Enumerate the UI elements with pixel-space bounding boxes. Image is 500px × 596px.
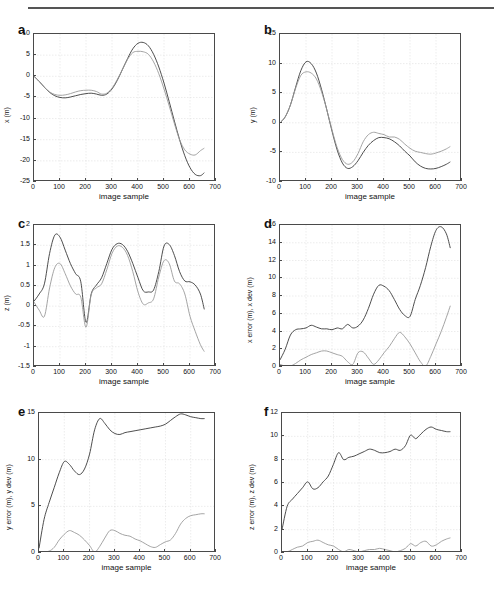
- x-tick-label-f: 700: [449, 554, 473, 561]
- plot-area-e: [38, 412, 215, 552]
- x-tick-label-d: 400: [371, 368, 395, 375]
- y-tick-label-b: 0: [253, 118, 276, 125]
- series-line-b-1: [280, 72, 450, 165]
- x-tick-label-c: 0: [21, 368, 45, 375]
- x-tick-label-a: 100: [47, 183, 71, 190]
- x-tickmark-d: [357, 363, 358, 366]
- x-tickmark-b: [331, 178, 332, 181]
- x-tickmark-e: [114, 549, 115, 552]
- plot-svg-a: [34, 34, 215, 181]
- x-tickmark-c: [59, 363, 60, 366]
- y-tick-label-d: 16: [253, 220, 276, 227]
- y-tickmark-e: [38, 412, 41, 413]
- y-tick-label-c: -1: [7, 342, 30, 349]
- figure-page: a-25-20-15-10-50510010020030040050060070…: [0, 0, 500, 596]
- x-tick-label-e: 300: [102, 554, 126, 561]
- x-tick-label-e: 400: [127, 554, 151, 561]
- y-tickmark-d: [279, 366, 282, 367]
- x-tick-label-c: 500: [151, 368, 175, 375]
- y-tick-label-b: -5: [253, 147, 276, 154]
- y-tickmark-c: [33, 346, 36, 347]
- x-tick-label-e: 500: [152, 554, 176, 561]
- x-tickmark-d: [279, 363, 280, 366]
- y-tick-label-f: 8: [255, 455, 278, 462]
- y-tickmark-f: [281, 459, 284, 460]
- x-axis-label-a: image sample: [33, 192, 215, 201]
- x-axis-label-b: image sample: [279, 192, 461, 201]
- y-tickmark-c: [33, 305, 36, 306]
- x-tickmark-a: [137, 178, 138, 181]
- y-tickmark-d: [279, 224, 282, 225]
- plot-area-c: [33, 224, 215, 366]
- x-tick-label-f: 400: [372, 554, 396, 561]
- x-tickmark-e: [139, 549, 140, 552]
- x-axis-label-f: image sample: [281, 563, 461, 572]
- y-tick-label-d: 8: [253, 291, 276, 298]
- y-tick-label-d: 4: [253, 327, 276, 334]
- x-tickmark-c: [163, 363, 164, 366]
- y-tick-label-b: 15: [253, 29, 276, 36]
- plot-svg-c: [34, 225, 215, 366]
- x-tick-label-a: 700: [203, 183, 227, 190]
- y-tickmark-d: [279, 295, 282, 296]
- series-line-f-0: [282, 427, 450, 530]
- y-tick-label-e: 5: [12, 501, 35, 508]
- x-tickmark-f: [358, 549, 359, 552]
- y-tick-label-c: 1: [7, 261, 30, 268]
- x-tick-label-f: 300: [346, 554, 370, 561]
- y-tick-label-c: 0.5: [7, 281, 30, 288]
- y-tickmark-b: [279, 92, 282, 93]
- x-tickmark-e: [215, 549, 216, 552]
- x-tickmark-e: [190, 549, 191, 552]
- y-tick-label-a: 10: [7, 29, 30, 36]
- y-tick-label-c: 2: [7, 220, 30, 227]
- y-tick-label-d: 2: [253, 344, 276, 351]
- x-tick-label-f: 500: [398, 554, 422, 561]
- x-tick-label-c: 300: [99, 368, 123, 375]
- y-tickmark-a: [33, 181, 36, 182]
- x-tick-label-d: 700: [449, 368, 473, 375]
- y-axis-label-f: z error (m), z dev (m): [248, 464, 255, 530]
- y-tick-label-b: 5: [253, 88, 276, 95]
- series-line-c-1: [34, 246, 204, 352]
- series-line-d-0: [280, 227, 450, 360]
- x-tick-label-a: 400: [125, 183, 149, 190]
- y-tick-label-c: -0.5: [7, 321, 30, 328]
- x-axis-label-c: image sample: [33, 377, 215, 386]
- y-tick-label-e: 10: [12, 455, 35, 462]
- gridlines-e: [39, 413, 215, 552]
- x-axis-label-e: image sample: [38, 563, 215, 572]
- plot-area-a: [33, 33, 215, 181]
- x-tick-label-c: 200: [73, 368, 97, 375]
- y-tickmark-b: [279, 122, 282, 123]
- y-tickmark-c: [33, 265, 36, 266]
- x-tickmark-f: [384, 549, 385, 552]
- y-axis-label-a: x (m): [3, 107, 10, 123]
- header-rule: [28, 7, 494, 9]
- y-tickmark-a: [33, 75, 36, 76]
- x-tick-label-b: 100: [293, 183, 317, 190]
- x-tick-label-f: 600: [423, 554, 447, 561]
- x-tickmark-c: [215, 363, 216, 366]
- series-line-a-0: [34, 42, 204, 176]
- plot-area-d: [279, 224, 461, 366]
- y-tick-label-f: 4: [255, 501, 278, 508]
- x-tick-label-e: 100: [51, 554, 75, 561]
- x-tickmark-c: [33, 363, 34, 366]
- x-tickmark-f: [307, 549, 308, 552]
- y-tick-label-e: 15: [12, 408, 35, 415]
- x-tickmark-a: [111, 178, 112, 181]
- x-tick-label-e: 700: [203, 554, 227, 561]
- x-tickmark-a: [85, 178, 86, 181]
- y-tick-label-a: 0: [7, 71, 30, 78]
- x-tick-label-f: 0: [269, 554, 293, 561]
- x-tickmark-d: [305, 363, 306, 366]
- y-tick-label-d: 14: [253, 238, 276, 245]
- x-tick-label-b: 500: [397, 183, 421, 190]
- x-tickmark-f: [410, 549, 411, 552]
- x-tick-label-c: 400: [125, 368, 149, 375]
- x-tickmark-a: [163, 178, 164, 181]
- y-tick-label-d: 12: [253, 256, 276, 263]
- y-tickmark-f: [281, 529, 284, 530]
- x-tickmark-b: [357, 178, 358, 181]
